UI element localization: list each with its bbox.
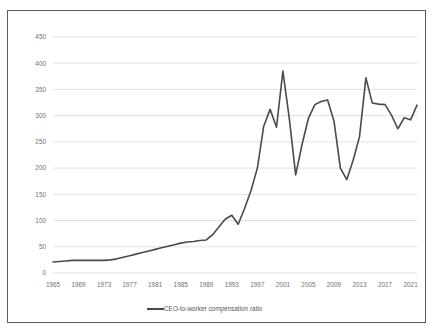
x-axis-tick-label: 2001 (276, 281, 291, 288)
gridlines-group (53, 37, 417, 273)
x-axis-tick-label: 1973 (97, 281, 112, 288)
series-line (53, 71, 417, 262)
x-axis-tick-labels: 1965196919731977198119851989199319972001… (46, 281, 418, 288)
y-axis-tick-label: 400 (35, 60, 46, 67)
y-axis-tick-label: 300 (35, 112, 46, 119)
y-axis-tick-label: 200 (35, 164, 46, 171)
x-axis-tick-label: 2009 (327, 281, 342, 288)
y-axis-tick-label: 250 (35, 138, 46, 145)
y-axis-tick-label: 50 (39, 243, 47, 250)
x-axis-tick-label: 1981 (148, 281, 163, 288)
y-axis-tick-label: 450 (35, 33, 46, 40)
chart-card: 050100150200250300350400450 196519691973… (7, 10, 426, 323)
x-axis-tick-label: 2013 (352, 281, 367, 288)
x-axis-tick-label: 1997 (250, 281, 265, 288)
line-chart: 050100150200250300350400450 196519691973… (8, 11, 427, 324)
y-axis-tick-label: 100 (35, 217, 46, 224)
legend-entry-label: CEO-to-worker compensation ratio (164, 305, 263, 313)
x-axis-tick-label: 2005 (301, 281, 316, 288)
x-axis-tick-label: 1969 (71, 281, 86, 288)
x-axis-tick-label: 1993 (225, 281, 240, 288)
x-axis-tick-label: 1977 (123, 281, 138, 288)
y-axis-tick-label: 150 (35, 191, 46, 198)
x-axis-tick-label: 1989 (199, 281, 214, 288)
chart-legend: CEO-to-worker compensation ratio (147, 305, 263, 313)
data-series-group (53, 71, 417, 262)
x-axis-tick-label: 1985 (174, 281, 189, 288)
y-axis-tick-labels: 050100150200250300350400450 (35, 33, 46, 276)
y-axis-tick-label: 350 (35, 86, 46, 93)
y-axis-tick-label: 0 (42, 269, 46, 276)
x-axis-tick-label: 1965 (46, 281, 61, 288)
x-axis-tick-label: 2017 (378, 281, 393, 288)
x-axis-tick-label: 2021 (404, 281, 419, 288)
